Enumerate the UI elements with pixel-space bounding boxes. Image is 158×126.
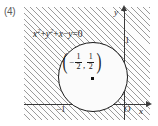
denominator: 2	[76, 63, 82, 71]
origin-label: O	[124, 104, 131, 114]
right-paren: )	[96, 53, 101, 70]
coordinate-figure: ( − 1 2 , 1 2 ) x2+y2+x−y=0 −1 1 O x y	[24, 7, 150, 120]
numerator: 1	[88, 53, 94, 61]
negative-sign: −	[69, 57, 74, 67]
eq-zero: 0	[78, 29, 83, 39]
coordinate-comma: ,	[83, 60, 85, 71]
x-axis-arrow-icon	[146, 101, 152, 107]
left-paren: (	[63, 53, 68, 70]
x-axis-label: x	[139, 106, 143, 116]
fraction-one-half-y: 1 2	[87, 53, 94, 71]
center-coordinate-label: ( − 1 2 , 1 2 )	[61, 53, 103, 71]
y-axis-arrow-icon	[121, 5, 127, 11]
figure-page: (4) ( − 1 2 , 1 2 ) x2+y2+x−y=0	[0, 0, 158, 126]
y-axis-label: y	[114, 7, 118, 17]
problem-number: (4)	[4, 6, 15, 17]
x-tick-label-neg-one: −1	[56, 104, 66, 114]
y-tick-label-one: 1	[125, 35, 130, 45]
fraction-one-half-x: 1 2	[75, 53, 82, 71]
denominator: 2	[88, 63, 94, 71]
circle-equation-label: x2+y2+x−y=0	[33, 27, 83, 39]
numerator: 1	[76, 53, 82, 61]
center-point-marker	[91, 77, 94, 80]
